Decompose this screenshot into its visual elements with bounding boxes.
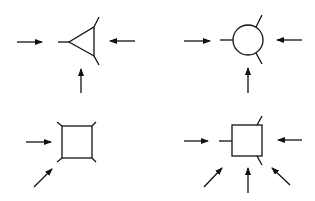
square-vertex-panel: [26, 122, 96, 187]
external-leg: [256, 53, 262, 64]
external-leg: [94, 17, 99, 27]
triangle-vertex-panel: [17, 17, 135, 93]
external-leg: [92, 158, 96, 162]
external-leg: [257, 116, 262, 125]
arrow-icon: [272, 168, 290, 185]
external-leg: [257, 156, 262, 165]
square-shape: [62, 126, 92, 158]
external-leg: [57, 122, 62, 126]
triangle-shape: [69, 27, 94, 56]
external-leg: [57, 158, 62, 162]
circle-shape: [233, 25, 263, 55]
arrow-icon: [34, 169, 52, 187]
external-leg: [256, 15, 262, 27]
vertex-diagram: [0, 0, 315, 201]
external-leg: [92, 122, 96, 126]
box-vertex-panel: [184, 116, 302, 193]
circle-vertex-panel: [184, 15, 302, 93]
external-leg: [94, 56, 99, 65]
box-shape: [232, 125, 262, 156]
arrow-icon: [204, 168, 222, 187]
